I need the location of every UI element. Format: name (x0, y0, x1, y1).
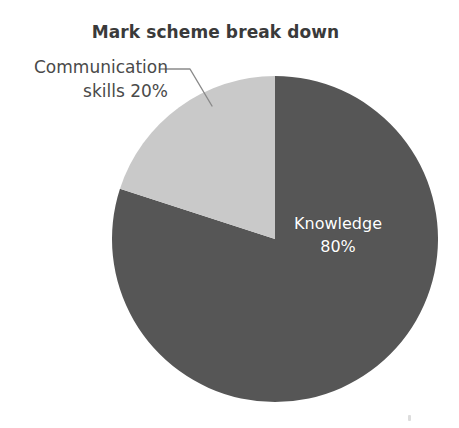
knowledge-label-value: 80% (272, 235, 404, 258)
knowledge-label-name: Knowledge (294, 214, 382, 233)
communication-skills-slice-label: Communication skills 20% (4, 55, 168, 103)
communication-leader-line (160, 58, 222, 114)
communication-label-value: skills 20% (4, 79, 168, 103)
chart-title: Mark scheme break down (0, 22, 459, 42)
scan-artifact-speck (408, 415, 411, 421)
communication-label-name: Communication (34, 57, 168, 77)
knowledge-slice-label: Knowledge 80% (272, 212, 404, 258)
pie-chart-figure: Mark scheme break down Knowledge 80% Com… (0, 0, 459, 428)
